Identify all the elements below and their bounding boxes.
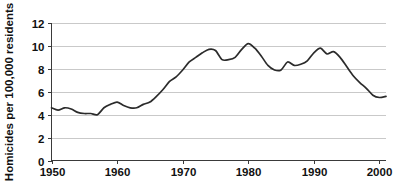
y-tick-label: 8 [38, 64, 45, 76]
y-tick-label: 4 [38, 110, 45, 122]
chart-canvas: 024681012 195019601970198019902000 Homic… [0, 0, 401, 196]
x-tick-label: 1950 [40, 166, 66, 178]
x-tick-label: 2000 [367, 166, 393, 178]
y-tick-label: 12 [32, 18, 45, 30]
y-axis-title: Homicides per 100,000 residents [3, 3, 15, 181]
homicide-rate-line-chart: 024681012 195019601970198019902000 Homic… [0, 0, 401, 196]
y-tick-label: 6 [38, 87, 44, 99]
y-tick-label: 2 [38, 133, 44, 145]
x-tick-label: 1980 [236, 166, 262, 178]
x-tick-label: 1960 [105, 166, 131, 178]
x-tick-label: 1990 [302, 166, 328, 178]
x-tick-label: 1970 [171, 166, 197, 178]
y-tick-label: 10 [32, 41, 45, 53]
